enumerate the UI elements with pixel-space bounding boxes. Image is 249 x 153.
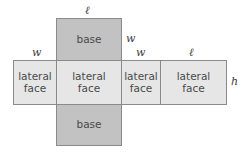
face-lateral-2: lateral face — [56, 60, 122, 105]
dimension-label-width-right: w — [136, 47, 145, 58]
face-base-top-label: base — [76, 34, 101, 46]
face-lateral-4: lateral face — [160, 60, 227, 105]
face-base-top: base — [56, 18, 122, 61]
dimension-label-height: h — [231, 76, 238, 87]
prism-net-figure: base lateral face lateral face lateral f… — [0, 0, 249, 153]
face-lateral-4-label: lateral face — [177, 71, 211, 95]
face-lateral-3: lateral face — [121, 60, 161, 105]
dimension-label-length-right: ℓ — [189, 47, 194, 58]
face-lateral-1: lateral face — [13, 60, 57, 105]
face-base-bottom: base — [56, 104, 122, 146]
dimension-label-width-middle: w — [126, 33, 135, 44]
face-lateral-1-label: lateral face — [18, 71, 52, 95]
face-lateral-3-label: lateral face — [124, 71, 158, 95]
dimension-label-width-left: w — [32, 47, 41, 58]
dimension-label-length-top: ℓ — [85, 5, 90, 16]
face-base-bottom-label: base — [76, 119, 101, 131]
face-lateral-2-label: lateral face — [72, 71, 106, 95]
